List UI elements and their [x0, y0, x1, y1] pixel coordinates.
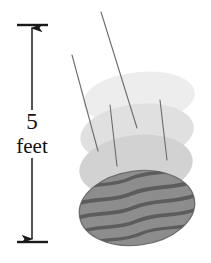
falling-watermelon-figure: 5 feet	[0, 0, 211, 263]
dimension-unit-label: feet	[0, 136, 64, 157]
dimension-value-label: 5	[0, 110, 64, 133]
